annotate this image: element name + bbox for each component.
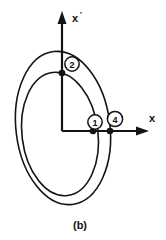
marker-1-label: 1 xyxy=(92,118,97,128)
marker-1: 1 xyxy=(88,115,102,129)
marker-2: 2 xyxy=(65,57,79,71)
x-axis-arrowhead xyxy=(136,127,149,136)
x-axis-label: x xyxy=(149,112,156,124)
x-prime-axis-arrowhead xyxy=(58,11,67,24)
marker-4: 4 xyxy=(107,111,122,126)
figure-container: 2 1 4 x ' x (b) xyxy=(0,0,166,240)
x-prime-axis-prime-mark: ' xyxy=(80,10,82,19)
figure-caption: (b) xyxy=(73,219,87,231)
marker-4-label: 4 xyxy=(112,115,117,125)
node-dot-top xyxy=(59,70,66,77)
marker-2-label: 2 xyxy=(69,60,74,70)
x-prime-axis-label: x xyxy=(72,12,79,24)
node-dot-outer-right xyxy=(107,128,114,135)
figure-diagram: 2 1 4 x ' x (b) xyxy=(0,0,166,240)
